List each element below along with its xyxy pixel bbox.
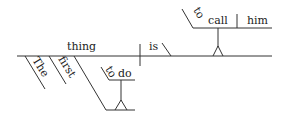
infinitive-to-word: to bbox=[102, 64, 119, 81]
subject-word: thing bbox=[67, 40, 96, 53]
predicate-verb-word: call bbox=[208, 14, 228, 27]
verb-word: is bbox=[149, 40, 159, 53]
predicate-object-word: him bbox=[247, 14, 269, 27]
predicate-pedestal bbox=[213, 46, 223, 56]
infinitive-phrase-connector bbox=[74, 56, 135, 110]
sentence-diagram: thing is The first to do to call him bbox=[0, 0, 282, 120]
predicate-nominative-slash bbox=[162, 43, 171, 56]
article-word: The bbox=[29, 55, 51, 80]
infinitive-do-pedestal bbox=[115, 100, 127, 110]
predicate-to-word: to bbox=[190, 5, 207, 22]
infinitive-do-word: do bbox=[118, 67, 132, 80]
